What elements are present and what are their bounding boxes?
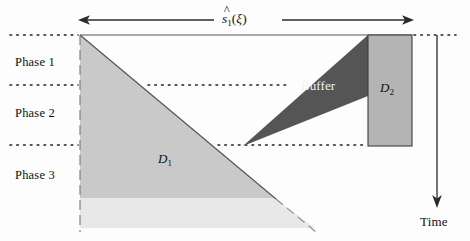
s-hat-glyph: ^s1 xyxy=(222,12,232,28)
figure-root: ^s1(ξ) Phase 1 Phase 2 Phase 3 D1 Buffer… xyxy=(0,0,470,241)
phase-label-2: Phase 2 xyxy=(15,107,55,120)
span-label-subscript: 1 xyxy=(227,18,232,28)
buffer-label: Buffer xyxy=(301,79,335,92)
hat-accent-icon: ^ xyxy=(224,4,230,17)
d1-label-base: D xyxy=(158,151,167,166)
span-arrow-label: ^s1(ξ) xyxy=(222,12,247,28)
figure-canvas xyxy=(0,0,470,241)
d2-label-base: D xyxy=(380,80,389,95)
span-label-close-paren: ) xyxy=(242,11,247,26)
d1-label: D1 xyxy=(158,152,172,168)
time-axis-label: Time xyxy=(420,215,448,228)
d2-label-subscript: 2 xyxy=(389,87,394,97)
d1-label-subscript: 1 xyxy=(167,158,172,168)
phase-label-1: Phase 1 xyxy=(15,56,55,69)
phase-label-3: Phase 3 xyxy=(15,169,55,182)
time-axis-arrow xyxy=(432,35,442,208)
d2-label: D2 xyxy=(380,81,394,97)
